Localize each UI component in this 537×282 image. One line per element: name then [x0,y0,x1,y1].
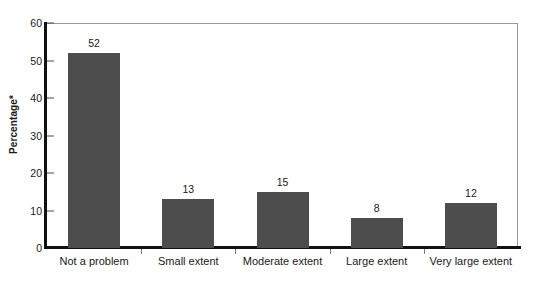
x-axis-category-label: Very large extent [430,255,513,267]
bar-value-label: 15 [257,176,309,188]
y-axis-tick-label: 50 [30,55,42,67]
x-axis-tick-mark [424,249,425,254]
x-axis-tick-mark [141,249,142,254]
x-axis-category-label: Not a problem [60,255,129,267]
x-axis-category-label: Moderate extent [243,255,323,267]
x-axis-tick-mark [235,249,236,254]
bar-value-label: 8 [351,202,403,214]
y-axis-tick-label: 30 [30,130,42,142]
bar-rect[interactable] [68,53,120,248]
x-axis-category-label: Large extent [346,255,407,267]
bar-series: 521315812 [47,23,518,248]
bar-rect[interactable] [257,192,309,248]
y-axis-title-text: Percentage* [8,95,19,154]
x-axis-category-labels: Not a problemSmall extentModerate extent… [47,255,518,277]
bar-rect[interactable] [351,218,403,248]
bar-item[interactable]: 12 [445,23,497,248]
bar-value-label: 52 [68,37,120,49]
y-axis-tick-label: 0 [36,242,42,254]
x-axis-category-label: Small extent [158,255,219,267]
bar-rect[interactable] [445,203,497,248]
bar-item[interactable]: 13 [162,23,214,248]
bar-item[interactable]: 15 [257,23,309,248]
x-axis-tick-mark [330,249,331,254]
y-axis-tick-label: 40 [30,92,42,104]
y-axis-tick-labels: 0102030405060 [18,0,42,250]
y-axis-tick-label: 60 [30,17,42,29]
y-axis-tick-label: 10 [30,205,42,217]
bar-item[interactable]: 8 [351,23,403,248]
bar-value-label: 13 [162,183,214,195]
bar-chart: Percentage* 0102030405060 521315812 Not … [0,0,537,282]
bar-item[interactable]: 52 [68,23,120,248]
y-axis-tick-label: 20 [30,167,42,179]
bar-rect[interactable] [162,199,214,248]
bar-value-label: 12 [445,187,497,199]
